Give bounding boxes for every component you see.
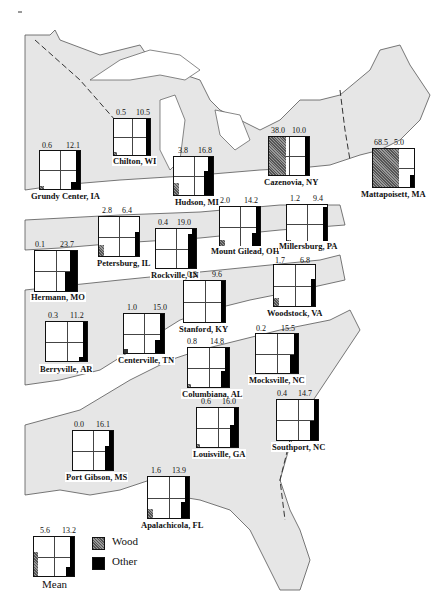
- chart-box: [123, 313, 165, 354]
- wood-value: 0.1: [35, 240, 45, 249]
- chart-box: [33, 536, 75, 577]
- chart-box: [173, 156, 214, 196]
- other-value: 23.7: [60, 240, 74, 249]
- wood-value: 0.0: [74, 420, 84, 429]
- site-label: Millersburg, PA: [278, 241, 338, 251]
- chart-box: [45, 321, 88, 362]
- legend-other-label: Other: [112, 555, 137, 567]
- wood-value: 1.0: [127, 303, 137, 312]
- other-value: 11.2: [70, 311, 84, 320]
- chart-box: [268, 136, 310, 176]
- wood-swatch-icon: [92, 537, 105, 550]
- site-label: Mattapoisett, MA: [360, 189, 427, 199]
- other-value: 5.0: [394, 138, 404, 147]
- wood-value: 0.3: [48, 311, 58, 320]
- chart-box: [196, 407, 239, 448]
- chart-box: [39, 150, 81, 190]
- wood-value: 0.4: [158, 218, 168, 227]
- chart-box: [372, 148, 415, 188]
- site-label: Apalachicola, FL: [140, 520, 204, 530]
- other-value: 15.0: [153, 303, 167, 312]
- site-label: Centerville, TN: [117, 355, 175, 365]
- chart-box: [98, 216, 140, 257]
- chart-box: [219, 206, 261, 247]
- wood-value: 5.6: [40, 526, 50, 535]
- site-label: Chilton, WI: [112, 156, 157, 166]
- site-label: Mocksville, NC: [248, 375, 306, 385]
- other-value: 10.5: [136, 108, 150, 117]
- other-value: 9.6: [212, 270, 222, 279]
- site-label: Cazenovia, NY: [263, 177, 319, 187]
- site-label: Grundy Center, IA: [30, 191, 101, 201]
- wood-value: 38.0: [271, 126, 285, 135]
- site-label: Mount Gilead, OH: [210, 246, 280, 256]
- chart-box: [155, 228, 197, 269]
- site-label: Louisville, GA: [192, 449, 246, 459]
- site-label: Hermann, MO: [30, 292, 86, 302]
- site-label: Mean: [41, 578, 68, 590]
- other-value: 6.4: [122, 206, 132, 215]
- chart-box: [34, 250, 78, 292]
- chart-box: [72, 430, 114, 471]
- wood-value: 3.8: [178, 146, 188, 155]
- site-label: Stanford, KY: [178, 324, 229, 334]
- other-value: 16.8: [198, 146, 212, 155]
- wood-value: 68.5: [374, 138, 388, 147]
- site-label: Hudson, MI: [174, 197, 220, 207]
- chart-box: [187, 347, 230, 388]
- legend-wood-label: Wood: [112, 535, 138, 547]
- chart-box: [147, 476, 190, 519]
- chart-box: [286, 204, 328, 244]
- other-value: 12.1: [66, 141, 80, 150]
- site-label: Berryville, AR: [39, 364, 93, 374]
- other-value: 15.5: [281, 324, 295, 333]
- wood-value: 2.0: [220, 196, 230, 205]
- other-value: 13.9: [172, 466, 186, 475]
- chart-box: [276, 399, 319, 441]
- chart-box: [183, 280, 226, 323]
- wood-value: 1.2: [290, 194, 300, 203]
- chart-box: [255, 333, 299, 374]
- other-value: 14.8: [210, 337, 224, 346]
- other-value: 16.1: [96, 420, 110, 429]
- other-value: 14.2: [244, 196, 258, 205]
- other-swatch-icon: [92, 557, 105, 570]
- site-label: Woodstock, VA: [266, 308, 323, 318]
- other-value: 9.4: [313, 194, 323, 203]
- wood-value: 0.4: [277, 389, 287, 398]
- site-label: Petersburg, IL: [96, 258, 151, 268]
- wood-value: 1.6: [151, 466, 161, 475]
- chart-box: [113, 118, 151, 156]
- other-value: 10.0: [292, 126, 306, 135]
- other-value: 19.0: [177, 218, 191, 227]
- wood-value: 0.6: [42, 141, 52, 150]
- wood-value: 0.2: [256, 324, 266, 333]
- wood-value: 0.8: [187, 337, 197, 346]
- site-label: Southport, NC: [271, 442, 326, 452]
- chart-box: [273, 264, 316, 307]
- northern-zone: [25, 30, 430, 190]
- wood-value: 0.5: [116, 108, 126, 117]
- other-value: 14.7: [298, 389, 312, 398]
- wood-value: 2.8: [102, 206, 112, 215]
- wood-value: 0.6: [201, 397, 211, 406]
- other-value: 16.0: [222, 397, 236, 406]
- site-label: Port Gibson, MS: [65, 472, 128, 482]
- other-value: 13.2: [62, 526, 76, 535]
- wood-value: 0.2: [187, 270, 197, 279]
